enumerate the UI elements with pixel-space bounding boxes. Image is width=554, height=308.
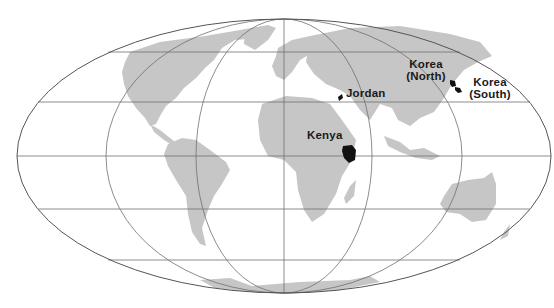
world-map — [0, 0, 554, 308]
landmasses — [122, 25, 510, 294]
korea-south-shape — [455, 87, 462, 93]
label-korea-south-line2: (South) — [466, 88, 514, 100]
korea-north-shape — [450, 80, 456, 87]
south-america — [164, 138, 230, 246]
antarctica — [200, 276, 380, 294]
jordan-shape — [338, 94, 343, 101]
label-korea-north-line1: Korea — [402, 58, 450, 70]
label-korea-south-line1: Korea — [466, 76, 514, 88]
africa — [258, 96, 356, 222]
madagascar — [344, 180, 356, 204]
australia — [440, 172, 496, 222]
label-korea-north: Korea (North) — [402, 58, 450, 82]
label-korea-north-line2: (North) — [402, 70, 450, 82]
label-kenya: Kenya — [307, 129, 343, 141]
label-korea-south: Korea (South) — [466, 76, 514, 100]
new-zealand — [500, 224, 510, 240]
label-jordan: Jordan — [346, 87, 386, 99]
